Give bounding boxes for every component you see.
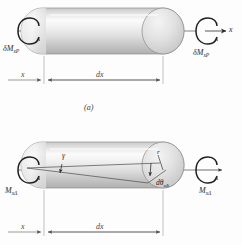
moment-subscript: xP bbox=[13, 48, 19, 54]
cylinder-left-nose-a bbox=[21, 8, 46, 54]
panel-letter-a: (a) bbox=[84, 103, 93, 112]
torsion-figure: δMxP δMxP x x dx (a) MxΔ MxΔ γ r dθxΔ x … bbox=[0, 0, 242, 245]
panel-a-graphics bbox=[8, 8, 226, 84]
radius-label-r: r bbox=[157, 148, 160, 156]
panel-b-graphics bbox=[8, 142, 222, 236]
dimension-label-dx-b: dx bbox=[96, 222, 104, 231]
cylinder-left-nose-b bbox=[21, 142, 46, 188]
moment-symbol: M bbox=[199, 186, 206, 195]
shear-angle-label-gamma: γ bbox=[62, 151, 65, 160]
moment-label-left-a: δMxP bbox=[3, 44, 19, 53]
moment-symbol: δM bbox=[193, 48, 203, 57]
figure-svg bbox=[0, 0, 242, 245]
dimension-label-dx-a: dx bbox=[96, 70, 104, 79]
moment-subscript: xΔ bbox=[206, 190, 212, 196]
moment-label-right-b: MxΔ bbox=[199, 186, 211, 195]
moment-symbol: δM bbox=[3, 44, 13, 53]
moment-label-left-b: MxΔ bbox=[5, 186, 17, 195]
twist-angle-label-dtheta: dθxΔ bbox=[156, 178, 169, 187]
axis-label-a: x bbox=[229, 25, 233, 34]
dimension-label-x-b: x bbox=[21, 222, 25, 231]
twist-subscript: xΔ bbox=[163, 183, 168, 188]
moment-subscript: xP bbox=[203, 52, 209, 58]
moment-symbol: M bbox=[5, 186, 12, 195]
moment-label-right-a: δMxP bbox=[193, 48, 209, 57]
moment-subscript: xΔ bbox=[12, 190, 18, 196]
dimension-label-x-a: x bbox=[21, 70, 25, 79]
